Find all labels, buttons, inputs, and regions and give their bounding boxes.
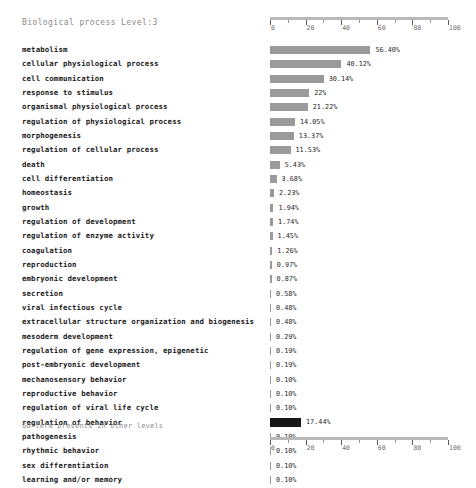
bar-row: extracellular structure organization and… bbox=[0, 316, 476, 330]
bar-row-label: cell communication bbox=[22, 74, 104, 84]
bar-wrap: 0.48% bbox=[270, 318, 476, 326]
bar-row-label: morphogenesis bbox=[22, 131, 81, 141]
bar-row-label: regulation of development bbox=[22, 217, 136, 227]
bar bbox=[270, 275, 272, 283]
bar bbox=[270, 333, 271, 341]
bar bbox=[270, 161, 280, 169]
bar-wrap: 0.10% bbox=[270, 404, 476, 412]
axis-tick-minor bbox=[395, 20, 396, 23]
bar-value-label: 21.22% bbox=[313, 103, 338, 112]
bar-row: mesoderm development0.29% bbox=[0, 331, 476, 345]
bar bbox=[270, 46, 370, 54]
bar-row: regulation of enzyme activity1.45% bbox=[0, 230, 476, 244]
bar-wrap: 0.19% bbox=[270, 347, 476, 355]
bar-row-label: learning and/or memory bbox=[22, 475, 122, 485]
bar-row-label: mesoderm development bbox=[22, 332, 113, 342]
bar-wrap: 3.68% bbox=[270, 175, 476, 183]
bar-row: regulation of gene expression, epigeneti… bbox=[0, 345, 476, 359]
axis-tick-label: 0 bbox=[271, 24, 275, 32]
bar bbox=[270, 204, 273, 212]
bar-row-label: viral infectious cycle bbox=[22, 303, 122, 313]
bar-value-label: 0.10% bbox=[276, 390, 296, 399]
bar-wrap: 0.10% bbox=[270, 390, 476, 398]
bar-value-label: 0.87% bbox=[277, 275, 297, 284]
axis-tick-label: 0 bbox=[271, 444, 275, 452]
bar-value-label: 56.40% bbox=[375, 46, 400, 55]
bar-value-label: 0.48% bbox=[276, 318, 296, 327]
bar-row: cell differentiation3.68% bbox=[0, 173, 476, 187]
bar-row: mechanosensory behavior0.10% bbox=[0, 374, 476, 388]
bar bbox=[270, 175, 277, 183]
bar bbox=[270, 89, 309, 97]
bar-value-label: 5.43% bbox=[285, 161, 305, 170]
axis-bottom: 020406080100 bbox=[270, 437, 448, 459]
bar-wrap: 22% bbox=[270, 89, 476, 97]
axis-top: 020406080100 bbox=[270, 17, 448, 39]
bar-row: death5.43% bbox=[0, 159, 476, 173]
axis-tick-label: 100 bbox=[449, 24, 461, 32]
bar bbox=[270, 261, 272, 269]
bar-value-label: 22% bbox=[314, 89, 326, 98]
bar-wrap: 0.48% bbox=[270, 304, 476, 312]
bar-wrap: 0.97% bbox=[270, 261, 476, 269]
bar-wrap: 5.43% bbox=[270, 161, 476, 169]
footer-bar-wrap: 17.44% bbox=[270, 418, 476, 427]
axis-tick-minor bbox=[430, 20, 431, 23]
bar bbox=[270, 189, 274, 197]
bar bbox=[270, 476, 271, 484]
bar bbox=[270, 132, 294, 140]
bar-row: regulation of development1.74% bbox=[0, 216, 476, 230]
bar-row-label: post-embryonic development bbox=[22, 360, 140, 370]
bar-row-label: cellular physiological process bbox=[22, 59, 159, 69]
bar-value-label: 0.10% bbox=[276, 404, 296, 413]
bar-row: coagulation1.26% bbox=[0, 245, 476, 259]
bar-wrap: 0.29% bbox=[270, 333, 476, 341]
bar-row: post-embryonic development0.19% bbox=[0, 359, 476, 373]
bar-row: cellular physiological process40.12% bbox=[0, 58, 476, 72]
bar-wrap: 0.58% bbox=[270, 290, 476, 298]
bar bbox=[270, 462, 271, 470]
bar bbox=[270, 118, 295, 126]
bar-value-label: 0.10% bbox=[276, 476, 296, 485]
bar bbox=[270, 75, 324, 83]
bar-row: cell communication30.14% bbox=[0, 73, 476, 87]
axis-tick-minor bbox=[359, 440, 360, 443]
bar bbox=[270, 232, 273, 240]
bar-value-label: 0.48% bbox=[276, 304, 296, 313]
bar bbox=[270, 247, 272, 255]
axis-tick-label: 40 bbox=[342, 444, 350, 452]
bar-row-label: regulation of viral life cycle bbox=[22, 403, 159, 413]
bar-row: secretion0.58% bbox=[0, 288, 476, 302]
bar-wrap: 0.19% bbox=[270, 361, 476, 369]
bar-wrap: 30.14% bbox=[270, 75, 476, 83]
bar-value-label: 1.74% bbox=[278, 218, 298, 227]
bar-wrap: 40.12% bbox=[270, 60, 476, 68]
bar-row: sex differentiation0.10% bbox=[0, 460, 476, 474]
bar-value-label: 1.45% bbox=[278, 232, 298, 241]
footer-bar-value: 17.44% bbox=[306, 418, 331, 427]
bar-row: metabolism56.40% bbox=[0, 44, 476, 58]
bar-value-label: 0.10% bbox=[276, 376, 296, 385]
bar-row: viral infectious cycle0.48% bbox=[0, 302, 476, 316]
bar-value-label: 3.68% bbox=[282, 175, 302, 184]
bar-value-label: 0.58% bbox=[276, 290, 296, 299]
bar-wrap: 14.05% bbox=[270, 118, 476, 126]
bar-row-label: response to stimulus bbox=[22, 88, 113, 98]
bar-wrap: 56.40% bbox=[270, 46, 476, 54]
bar-value-label: 0.19% bbox=[276, 361, 296, 370]
bar-row-label: regulation of physiological process bbox=[22, 117, 181, 127]
bar bbox=[270, 361, 271, 369]
bar-row: organismal physiological process21.22% bbox=[0, 101, 476, 115]
axis-tick-label: 20 bbox=[307, 444, 315, 452]
axis-tick-label: 20 bbox=[307, 24, 315, 32]
bar-wrap: 1.45% bbox=[270, 232, 476, 240]
bar-wrap: 1.74% bbox=[270, 218, 476, 226]
bar-wrap: 2.23% bbox=[270, 189, 476, 197]
bar-value-label: 0.29% bbox=[276, 333, 296, 342]
bar-row: morphogenesis13.37% bbox=[0, 130, 476, 144]
bar bbox=[270, 318, 271, 326]
bar-row: reproductive behavior0.10% bbox=[0, 388, 476, 402]
bar-row-label: rhythmic behavior bbox=[22, 446, 99, 456]
bar-row: homeostasis2.23% bbox=[0, 187, 476, 201]
